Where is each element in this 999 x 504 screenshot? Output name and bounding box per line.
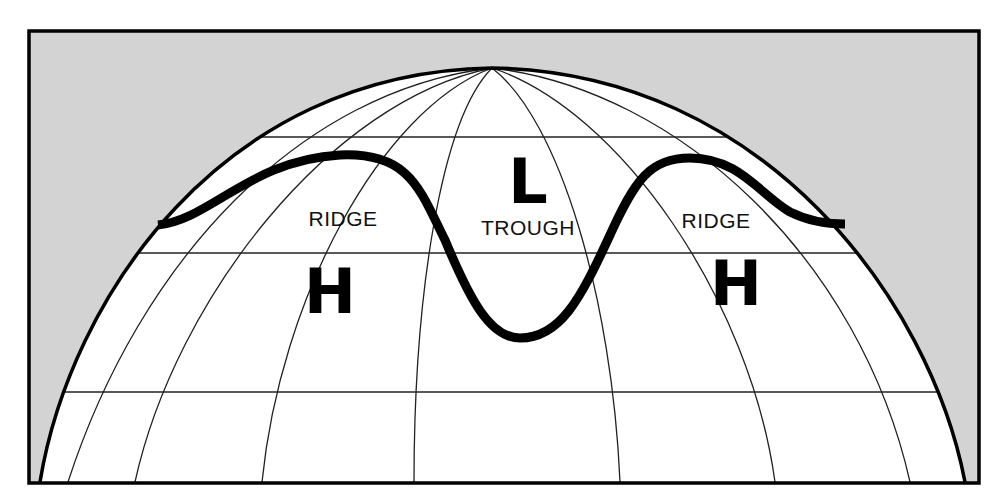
high-pressure-label-left: H [304,255,356,328]
high-pressure-label-right: H [710,247,762,320]
ridge-label-left: RIDGE [308,207,377,230]
trough-label: TROUGH [481,216,575,239]
globe-diagram: RIDGE TROUGH RIDGE H L H [0,0,999,504]
ridge-label-right: RIDGE [681,209,750,232]
diagram-canvas: RIDGE TROUGH RIDGE H L H [0,0,999,504]
low-pressure-label: L [508,145,548,218]
